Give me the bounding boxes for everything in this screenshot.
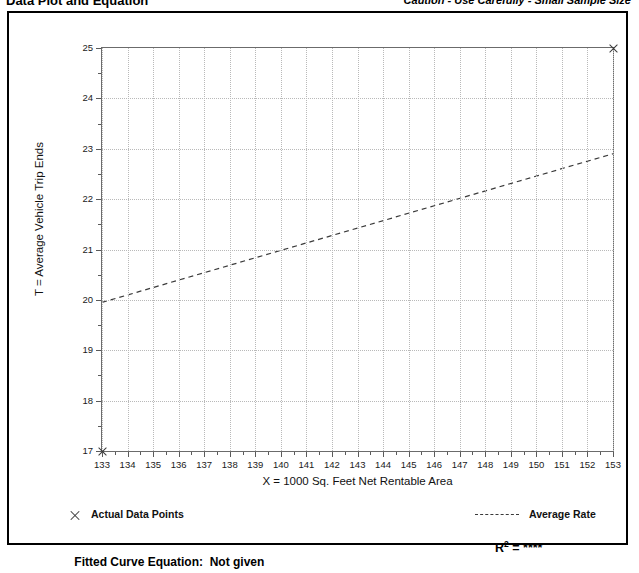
x-axis-tick [281,452,282,457]
x-axis-minor-tick [498,452,499,455]
y-axis-minor-tick [98,174,101,175]
x-axis-tick [562,452,563,457]
r-squared-value: **** [523,541,542,555]
x-axis-tick [358,452,359,457]
y-axis-minor-tick [98,275,101,276]
x-axis-tick [409,452,410,457]
plot-area [102,48,613,451]
gridline-vertical [613,48,614,451]
r-squared-block: R2 = **** [495,539,542,555]
y-axis-tick [96,98,101,99]
y-axis-tick-label: 20 [67,294,93,305]
x-axis-tick [536,452,537,457]
gridline-horizontal [102,199,613,200]
fitted-curve-equation: Fitted Curve Equation: Not given [61,541,264,573]
x-axis-tick [383,452,384,457]
gridline-horizontal [102,300,613,301]
x-axis-minor-tick [191,452,192,455]
x-axis-minor-tick [115,452,116,455]
y-axis-tick-label: 22 [67,193,93,204]
x-axis-tick-label: 153 [598,459,628,470]
x-axis-minor-tick [447,452,448,455]
gridline-horizontal [102,149,613,150]
x-axis-minor-tick [370,452,371,455]
x-axis-tick [230,452,231,457]
x-axis-tick [587,452,588,457]
x-axis-minor-tick [319,452,320,455]
y-axis-tick-label: 24 [67,92,93,103]
gridline-horizontal [102,350,613,351]
y-axis-tick-label: 19 [67,344,93,355]
x-axis-tick [460,452,461,457]
x-cross-icon [69,509,81,521]
y-axis-minor-tick [98,426,101,427]
x-axis-minor-tick [140,452,141,455]
r-squared-equals: = [509,541,523,555]
fitted-curve-equation-value: Not given [210,555,265,569]
x-axis-minor-tick [243,452,244,455]
chart-panel: T = Average Vehicle Trip Ends X = 1000 S… [7,11,628,545]
y-axis-tick [96,149,101,150]
x-axis-minor-tick [345,452,346,455]
y-axis-tick-label: 18 [67,395,93,406]
x-axis-tick [332,452,333,457]
x-axis-minor-tick [166,452,167,455]
x-axis-minor-tick [396,452,397,455]
x-axis-tick [204,452,205,457]
y-axis-title: T = Average Vehicle Trip Ends [33,49,45,389]
y-axis-tick [96,250,101,251]
x-axis-title: X = 1000 Sq. Feet Net Rentable Area [101,475,614,487]
r-squared-label: R [495,541,504,555]
x-axis-tick [179,452,180,457]
page-header: Data Plot and Equation Caution - Use Car… [0,0,639,10]
x-axis-tick [511,452,512,457]
y-axis-minor-tick [98,73,101,74]
x-axis-minor-tick [217,452,218,455]
x-axis-tick [255,452,256,457]
y-axis-tick [96,401,101,402]
x-axis-tick [153,452,154,457]
y-axis-tick-label: 25 [67,42,93,53]
gridline-horizontal [102,98,613,99]
x-axis-minor-tick [524,452,525,455]
fitted-curve-equation-label: Fitted Curve Equation: [74,555,203,569]
legend-actual-data-points-label: Actual Data Points [91,508,184,520]
x-axis-minor-tick [575,452,576,455]
legend-average-rate-label: Average Rate [529,508,596,520]
y-axis-tick-label: 17 [67,445,93,456]
x-axis-minor-tick [472,452,473,455]
caution-note: Caution - Use Carefully - Small Sample S… [404,0,631,6]
dashed-line-icon [475,514,519,515]
y-axis-tick [96,199,101,200]
y-axis-tick [96,451,101,452]
x-axis-minor-tick [421,452,422,455]
x-axis-minor-tick [549,452,550,455]
page-title: Data Plot and Equation [6,0,148,8]
y-axis-minor-tick [98,325,101,326]
y-axis-tick-label: 21 [67,244,93,255]
x-axis-tick [434,452,435,457]
y-axis-tick-label: 23 [67,143,93,154]
y-axis-tick [96,48,101,49]
x-axis-minor-tick [600,452,601,455]
x-axis-tick [102,452,103,457]
x-axis-tick [306,452,307,457]
gridline-horizontal [102,250,613,251]
y-axis-tick [96,300,101,301]
x-axis-tick [128,452,129,457]
x-axis-minor-tick [268,452,269,455]
y-axis-minor-tick [98,124,101,125]
x-axis-tick [485,452,486,457]
gridline-horizontal [102,401,613,402]
x-axis-tick [613,452,614,457]
y-axis-minor-tick [98,375,101,376]
y-axis-tick [96,350,101,351]
x-axis-minor-tick [294,452,295,455]
y-axis-minor-tick [98,224,101,225]
